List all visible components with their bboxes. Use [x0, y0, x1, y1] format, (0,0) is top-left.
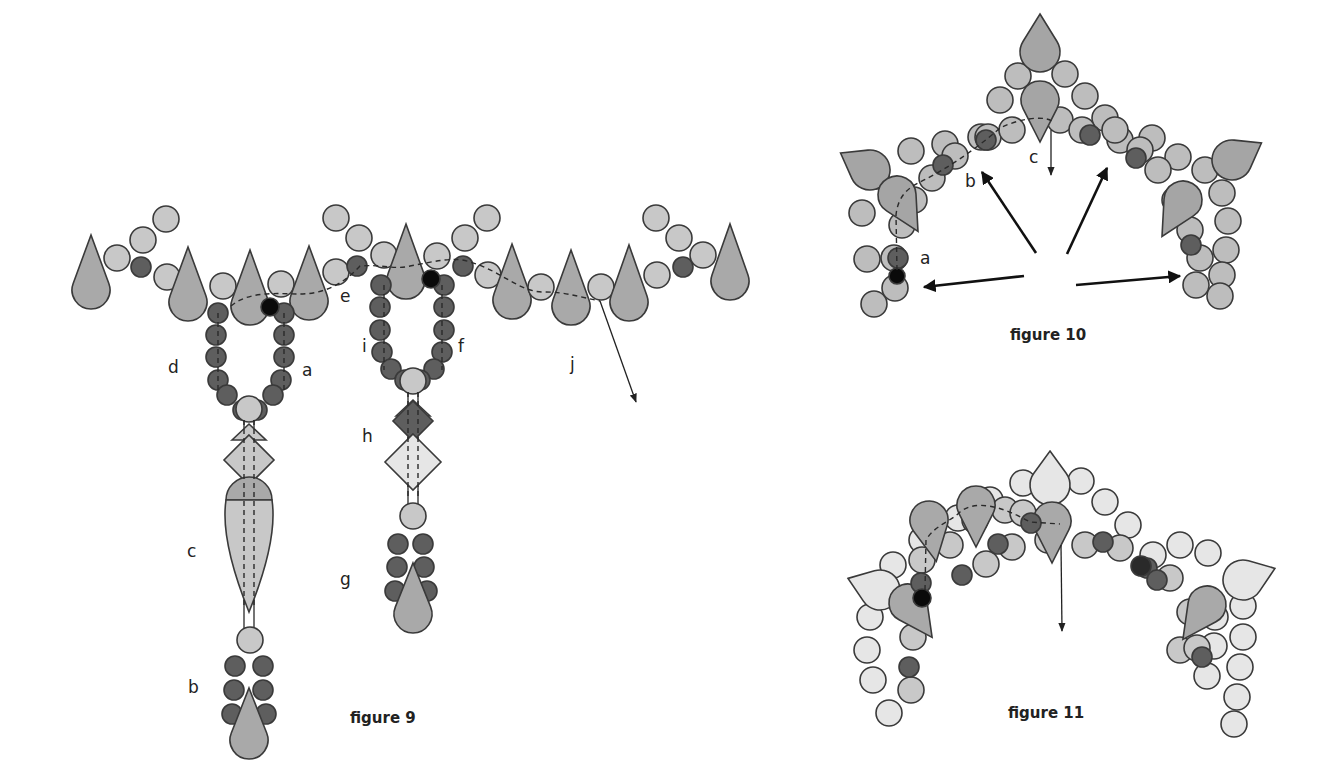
dark-seed-bead — [899, 657, 919, 677]
dark-seed-bead — [1181, 235, 1201, 255]
round-bead — [973, 551, 999, 577]
dark-seed-bead — [371, 275, 391, 295]
round-bead — [690, 242, 716, 268]
round-bead — [1072, 83, 1098, 109]
drop-bead — [1021, 81, 1059, 142]
dark-seed-bead — [1080, 125, 1100, 145]
figure-10-caption: figure 10 — [1010, 326, 1086, 344]
fig10-label-c: c — [1029, 147, 1038, 167]
fig10-label-a: a — [920, 248, 930, 268]
round-bead — [1195, 540, 1221, 566]
drop-bead-light — [1217, 550, 1281, 606]
label-c: c — [187, 541, 196, 561]
round-bead — [849, 200, 875, 226]
round-bead — [400, 503, 426, 529]
label-a: a — [302, 360, 312, 380]
dark-seed-bead — [1131, 556, 1151, 576]
round-bead — [268, 271, 294, 297]
label-e: e — [340, 286, 350, 306]
long-drop-bead — [225, 500, 273, 612]
dark-seed-bead — [206, 347, 226, 367]
round-bead — [1224, 684, 1250, 710]
drop-bead — [1020, 14, 1060, 72]
dark-seed-bead — [1093, 532, 1113, 552]
dark-seed-bead — [888, 248, 908, 268]
round-bead — [643, 205, 669, 231]
round-bead — [474, 205, 500, 231]
round-bead — [323, 259, 349, 285]
round-bead — [644, 262, 670, 288]
dark-seed-bead — [1192, 647, 1212, 667]
round-bead — [854, 637, 880, 663]
dark-seed-bead — [952, 565, 972, 585]
round-bead — [1213, 237, 1239, 263]
dark-seed-bead — [387, 557, 407, 577]
crystal-bicone — [385, 434, 441, 490]
label-f: f — [458, 336, 465, 356]
figure-11-caption: figure 11 — [1008, 704, 1084, 722]
dark-seed-bead — [253, 680, 273, 700]
fig10-label-b: b — [965, 171, 976, 191]
drop-bead — [711, 224, 749, 300]
round-bead — [528, 274, 554, 300]
round-bead — [1115, 512, 1141, 538]
dark-seed-bead — [224, 680, 244, 700]
round-bead — [1102, 117, 1128, 143]
round-bead — [898, 138, 924, 164]
round-bead — [1183, 272, 1209, 298]
round-bead — [1068, 468, 1094, 494]
dark-seed-bead — [988, 534, 1008, 554]
round-bead — [1167, 532, 1193, 558]
dark-seed-bead — [413, 534, 433, 554]
dark-seed-bead — [1021, 513, 1041, 533]
dark-seed-bead — [131, 257, 151, 277]
bead-diagram-canvas: d a e i f j h c g b figure 9 a b c figur… — [0, 0, 1329, 783]
dark-seed-bead — [217, 385, 237, 405]
dark-seed-bead — [370, 320, 390, 340]
round-bead — [210, 273, 236, 299]
black-start-bead — [889, 268, 905, 284]
round-bead — [1209, 180, 1235, 206]
figure-9-caption: figure 9 — [350, 709, 416, 727]
round-bead — [236, 396, 262, 422]
black-start-bead — [422, 270, 440, 288]
round-bead — [1092, 489, 1118, 515]
dark-seed-bead — [933, 155, 953, 175]
round-bead — [987, 87, 1013, 113]
black-start-bead — [261, 298, 279, 316]
dark-seed-bead — [1126, 148, 1146, 168]
drop-bead — [610, 245, 648, 321]
dark-seed-bead — [263, 385, 283, 405]
dark-seed-bead — [434, 297, 454, 317]
dark-seed-bead — [388, 534, 408, 554]
round-bead — [1227, 654, 1253, 680]
round-bead — [323, 205, 349, 231]
round-bead — [153, 206, 179, 232]
round-bead — [1221, 711, 1247, 737]
label-b: b — [188, 677, 199, 697]
round-bead — [237, 627, 263, 653]
dark-seed-bead — [253, 656, 273, 676]
dark-seed-bead — [370, 297, 390, 317]
round-bead — [854, 246, 880, 272]
figure-10 — [831, 14, 1272, 317]
dark-seed-bead — [347, 256, 367, 276]
dark-seed-bead — [673, 257, 693, 277]
drop-bead — [290, 246, 328, 320]
round-bead — [400, 368, 426, 394]
label-d: d — [168, 357, 179, 377]
dark-seed-bead — [225, 656, 245, 676]
drop-bead-light — [1030, 451, 1070, 505]
round-bead — [860, 667, 886, 693]
round-bead — [104, 245, 130, 271]
round-bead — [1230, 624, 1256, 650]
drop-bead — [552, 250, 590, 325]
round-bead — [130, 227, 156, 253]
drop-bead — [169, 247, 207, 321]
dark-seed-bead — [206, 325, 226, 345]
round-bead — [666, 225, 692, 251]
drop-bead — [387, 224, 425, 299]
figure-9 — [72, 205, 749, 759]
dark-seed-bead — [1147, 570, 1167, 590]
label-h: h — [362, 426, 373, 446]
